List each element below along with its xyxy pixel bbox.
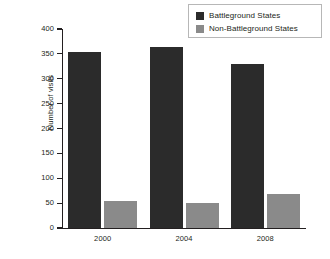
- y-axis-tick: [57, 78, 62, 79]
- legend-label-battleground: Battleground States: [209, 11, 280, 20]
- y-axis-tick-label: 150: [14, 148, 54, 157]
- x-axis-tick-label: 2008: [235, 234, 295, 243]
- y-axis-tick-label: 350: [14, 49, 54, 58]
- bar-chart: Number of visits 05010015020025030035040…: [0, 0, 330, 259]
- legend-entry-battleground: Battleground States: [196, 10, 280, 21]
- y-axis-tick: [57, 227, 62, 228]
- y-axis-tick-label: 0: [14, 223, 54, 232]
- y-axis-tick: [57, 53, 62, 54]
- y-axis-tick-label: 200: [14, 124, 54, 133]
- y-axis-line: [62, 29, 63, 229]
- y-axis-tick: [57, 28, 62, 29]
- bar-battleground-2000: [68, 52, 101, 228]
- y-axis-tick-label: 250: [14, 99, 54, 108]
- x-axis-line: [62, 228, 306, 229]
- y-axis-tick-label: 300: [14, 74, 54, 83]
- y-axis-tick: [57, 128, 62, 129]
- y-axis-tick-label: 50: [14, 198, 54, 207]
- y-axis-tick-label: 400: [14, 24, 54, 33]
- legend: Battleground States Non-Battleground Sta…: [188, 4, 322, 38]
- legend-label-non-battleground: Non-Battleground States: [209, 24, 298, 33]
- bar-non-battleground-2008: [267, 194, 300, 228]
- y-axis-tick-label: 100: [14, 173, 54, 182]
- legend-swatch-icon-non-battleground: [196, 25, 204, 33]
- x-axis-tick-label: 2004: [154, 234, 214, 243]
- bar-non-battleground-2004: [186, 203, 219, 228]
- x-axis-tick-label: 2000: [73, 234, 133, 243]
- y-axis-tick: [57, 153, 62, 154]
- bar-battleground-2008: [231, 64, 264, 228]
- bar-non-battleground-2000: [104, 201, 137, 228]
- y-axis-tick: [57, 178, 62, 179]
- bar-battleground-2004: [150, 47, 183, 228]
- y-axis-tick: [57, 103, 62, 104]
- legend-entry-non-battleground: Non-Battleground States: [196, 23, 298, 34]
- legend-swatch-icon-battleground: [196, 12, 204, 20]
- y-axis-tick: [57, 203, 62, 204]
